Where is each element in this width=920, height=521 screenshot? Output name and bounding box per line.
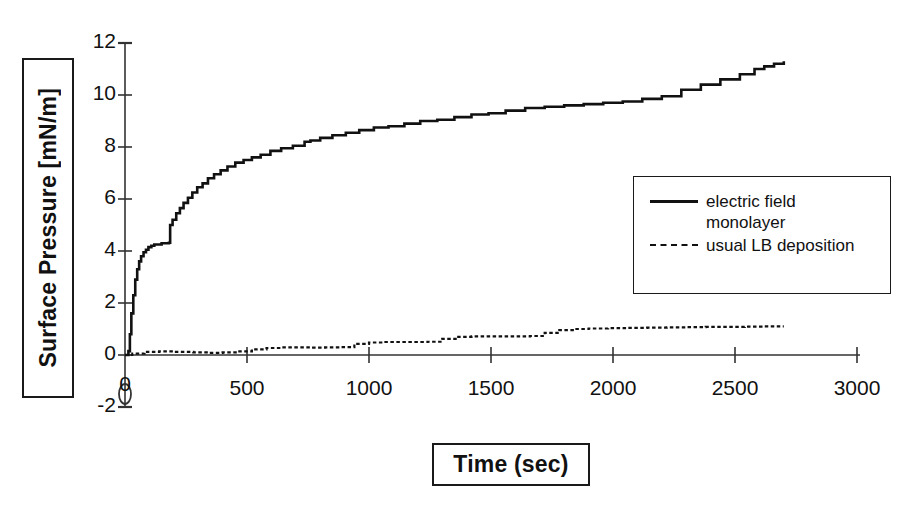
y-axis-title-box: Surface Pressure [mN/m]: [22, 58, 74, 398]
chart-legend: electric field monolayer usual LB deposi…: [633, 176, 891, 294]
x-tick-label: 2000: [568, 376, 658, 400]
legend-entry-usual-lb-deposition: usual LB deposition: [650, 235, 890, 256]
y-tick-label: 4: [72, 237, 116, 261]
y-tick-label: 12: [72, 29, 116, 53]
legend-swatch-dashed-line: [650, 244, 698, 250]
legend-label: electric field monolayer: [706, 191, 796, 233]
data-series-line: [125, 326, 784, 355]
y-axis-title: Surface Pressure [mN/m]: [35, 88, 62, 367]
y-tick-label: 10: [72, 81, 116, 105]
y-tick-label: 6: [72, 185, 116, 209]
x-tick-label: 3000: [812, 376, 902, 400]
x-tick-label: 2500: [690, 376, 780, 400]
x-axis-title: Time (sec): [453, 451, 568, 478]
x-tick-label: 1000: [324, 376, 414, 400]
y-tick-label: -2: [72, 393, 116, 417]
y-tick-label: 0: [72, 341, 116, 365]
chart-figure: -2024681012 050010001500200025003000 Sur…: [0, 0, 920, 521]
y-tick-label: 8: [72, 133, 116, 157]
legend-label: usual LB deposition: [706, 235, 854, 256]
x-tick-label: 1500: [446, 376, 536, 400]
x-tick-label: 500: [202, 376, 292, 400]
y-tick-label: 2: [72, 289, 116, 313]
legend-entry-electric-field-monolayer: electric field monolayer: [650, 191, 890, 233]
x-tick-label: 0: [80, 372, 170, 396]
legend-swatch-solid-line: [650, 200, 698, 207]
x-axis-title-box: Time (sec): [432, 443, 590, 486]
